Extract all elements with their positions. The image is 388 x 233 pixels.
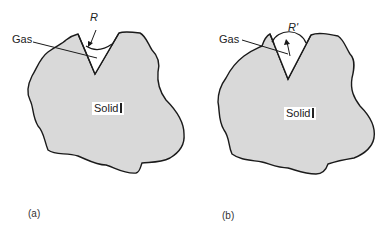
solid-label-b: Solid	[284, 107, 316, 120]
radius-label-a: R	[90, 12, 98, 23]
arrowhead-icon	[88, 41, 93, 47]
caption-a: (a)	[28, 209, 40, 219]
caption-b: (b)	[222, 211, 234, 221]
gas-label-a: Gas	[12, 34, 32, 45]
gas-label-b: Gas	[219, 34, 239, 45]
solid-label-a: Solid	[92, 102, 124, 115]
radius-label-b: R'	[288, 22, 298, 33]
diagram-canvas	[0, 0, 388, 233]
